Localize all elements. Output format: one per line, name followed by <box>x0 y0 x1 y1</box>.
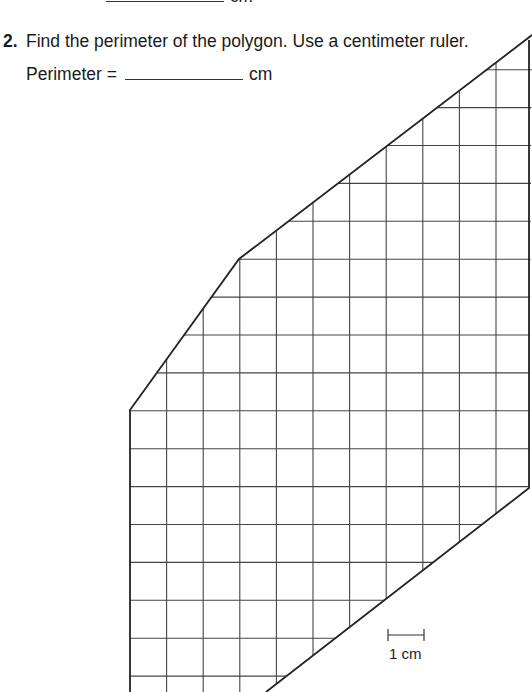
grid-lines <box>0 0 532 692</box>
polygon-figure <box>0 0 532 692</box>
scale-bar-label: 1 cm <box>389 645 422 662</box>
polygon-outline <box>130 35 532 692</box>
scale-bar <box>388 629 424 641</box>
